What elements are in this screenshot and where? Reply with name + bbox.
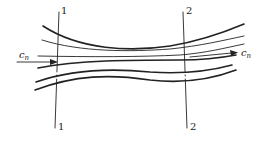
section-line-1 — [55, 12, 59, 128]
section-line-2 — [183, 12, 187, 128]
inlet-velocity-label: cn — [19, 50, 29, 62]
streamline-bottom — [35, 70, 236, 90]
section-2-top-label: 2 — [186, 6, 192, 16]
streamline-4 — [38, 55, 236, 68]
streamtube-diagram — [0, 0, 266, 141]
streamline-top — [43, 24, 244, 49]
section-1-bottom-label: 1 — [58, 122, 64, 132]
section-1-top-label: 1 — [61, 6, 67, 16]
section-2-bottom-label: 2 — [190, 122, 196, 132]
outlet-velocity-label: cn — [241, 48, 251, 60]
